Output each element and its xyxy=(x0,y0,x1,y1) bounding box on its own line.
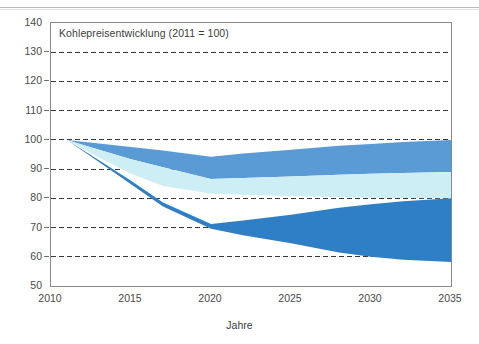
y-tick-label-140: 140 xyxy=(8,16,42,28)
y-tick-mark-90 xyxy=(44,168,49,169)
x-tick-label-2035: 2035 xyxy=(438,292,461,304)
y-tick-mark-130 xyxy=(44,51,49,52)
chart-title: Kohlepreisentwicklung (2011 = 100) xyxy=(59,27,229,39)
x-tick-label-2010: 2010 xyxy=(38,292,61,304)
y-tick-mark-100 xyxy=(44,139,49,140)
x-tick-label-2025: 2025 xyxy=(278,292,301,304)
y-tick-mark-70 xyxy=(44,227,49,228)
x-axis-title: Jahre xyxy=(0,319,479,331)
x-tick-label-2015: 2015 xyxy=(118,292,141,304)
area-bands xyxy=(67,140,451,262)
x-axis: 201020152020202520302035 xyxy=(0,292,479,308)
y-tick-label-130: 130 xyxy=(8,45,42,57)
y-tick-label-80: 80 xyxy=(8,191,42,203)
plot-area xyxy=(50,22,452,287)
top-divider-rule xyxy=(0,7,479,8)
top-divider-rule-shadow xyxy=(0,9,479,10)
y-tick-label-50: 50 xyxy=(8,279,42,291)
y-tick-mark-120 xyxy=(44,80,49,81)
y-tick-label-120: 120 xyxy=(8,74,42,86)
y-tick-mark-60 xyxy=(44,256,49,257)
chart-canvas xyxy=(51,23,451,286)
y-tick-label-60: 60 xyxy=(8,250,42,262)
y-tick-mark-80 xyxy=(44,197,49,198)
y-tick-label-70: 70 xyxy=(8,221,42,233)
y-tick-mark-110 xyxy=(44,110,49,111)
x-tick-label-2030: 2030 xyxy=(358,292,381,304)
y-tick-label-100: 100 xyxy=(8,133,42,145)
figure-root: 5060708090100110120130140 Kohlepreisentw… xyxy=(0,0,479,344)
x-tick-label-2020: 2020 xyxy=(198,292,221,304)
y-tick-label-90: 90 xyxy=(8,162,42,174)
y-tick-label-110: 110 xyxy=(8,104,42,116)
